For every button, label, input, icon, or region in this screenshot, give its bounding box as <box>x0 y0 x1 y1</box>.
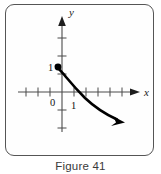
x-axis-arrowhead <box>130 88 140 95</box>
y-intercept-point <box>55 64 62 71</box>
origin-label: 0 <box>50 97 55 108</box>
figure-caption: Figure 41 <box>0 160 161 172</box>
figure-container: y x 1 0 1 Figure 41 <box>0 0 161 174</box>
y-axis-arrowhead <box>58 16 66 26</box>
x-axis-label: x <box>143 86 149 98</box>
y-unit-tick-label: 1 <box>48 62 53 73</box>
y-axis-label: y <box>68 6 74 18</box>
graph-plot: y x 1 0 1 <box>5 4 154 156</box>
x-unit-tick-label: 1 <box>71 100 76 111</box>
